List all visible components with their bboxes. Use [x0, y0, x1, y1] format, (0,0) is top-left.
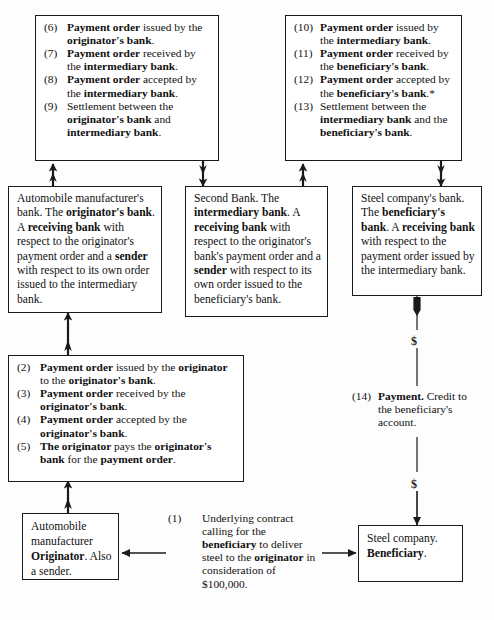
list-item: (3) Payment order received by the origin… [17, 387, 237, 413]
box-text: with respect to the payment order issued… [361, 235, 475, 277]
step-plain: . [152, 34, 155, 46]
arrow-intbank-to-steps1013 [299, 164, 307, 186]
arrow-originator-to-steps25 [64, 481, 72, 513]
list-item: (1) Underlying contract calling for the … [168, 512, 318, 591]
dollar-label-top: $ [411, 334, 417, 349]
step-strong: Payment order [40, 387, 113, 399]
box-text-strong: Originator [31, 550, 84, 563]
step-text: Payment order accepted by the intermedia… [67, 73, 212, 99]
step-plain: Settlement between the [320, 100, 426, 112]
payment-step-14-note: (14) Payment. Credit to the beneficiary'… [352, 390, 472, 429]
list-item: (4) Payment order accepted by the origin… [17, 413, 237, 439]
box-text-strong: originator's bank [66, 206, 152, 219]
box-text-strong: sender [115, 250, 148, 263]
step-text: Payment order accepted by the originator… [40, 413, 237, 439]
step-plain: . [175, 87, 178, 99]
step-strong: Payment order [320, 47, 393, 59]
step-strong: originator's bank [67, 113, 152, 125]
box-text-strong: receiving bank [28, 221, 101, 234]
step-plain: . [175, 60, 178, 72]
step-strong: originator's bank [68, 374, 153, 386]
arrow-steps25-to-origbank [64, 313, 72, 355]
step-text: The originator pays the originator's ban… [40, 440, 237, 466]
step-plain: received by the [113, 387, 185, 399]
step-strong: intermediary bank [84, 87, 175, 99]
step-strong: originator's bank [67, 34, 152, 46]
step-plain: Underlying contract calling for the [202, 512, 293, 537]
step-text: Settlement between the originator's bank… [67, 100, 212, 139]
step-number: (1) [168, 512, 202, 525]
box-text-strong: receiving bank [402, 221, 475, 234]
step-strong: originator [254, 551, 303, 563]
payment-order-steps-2-5-box: (2) Payment order issued by the originat… [8, 355, 244, 482]
step-plain: Settlement between the [67, 100, 173, 112]
step-plain: issued by the [140, 21, 202, 33]
step-strong: originator [178, 361, 227, 373]
step-plain: for the [65, 453, 101, 465]
beneficiarys-bank-box: Steel company's bank. The beneficiary's … [352, 186, 482, 296]
step-strong: Payment. [378, 390, 424, 402]
step-plain: .* [426, 87, 435, 99]
step-strong: beneficiary [202, 538, 256, 550]
payment-order-steps-6-9-box: (6) Payment order issued by the originat… [35, 15, 219, 161]
box-text-strong: sender [194, 264, 227, 277]
box-text: Automobile manufacturer [31, 520, 93, 548]
step-text: Payment order received by the originator… [40, 387, 237, 413]
step-text: Settlement between the intermediary bank… [320, 100, 455, 139]
originators-bank-box: Automobile manufacturer's bank. The orig… [8, 186, 162, 313]
arrow-steps1013-to-benebank [437, 161, 445, 186]
diagram-canvas: down into intermediary bank (double head… [0, 0, 494, 620]
step-plain: to the [40, 374, 68, 386]
step-text: Payment. Credit to the beneficiary's acc… [378, 390, 472, 429]
step-number: (14) [352, 390, 378, 403]
step-text: Payment order issued by the originator t… [40, 361, 237, 387]
step-plain: . [428, 34, 431, 46]
step-number: (12) [294, 73, 320, 86]
step-strong: Payment order [40, 361, 113, 373]
step-strong: intermediary bank [67, 126, 158, 138]
step-plain: . [173, 453, 176, 465]
step-number: (13) [294, 100, 320, 113]
list-item: (7) Payment order received by the interm… [44, 47, 212, 73]
step-strong: Payment order [320, 73, 393, 85]
step-strong: Payment order [67, 21, 140, 33]
step-strong: Payment order [67, 73, 140, 85]
step-plain: pays the [111, 440, 154, 452]
list-item: (5) The originator pays the originator's… [17, 440, 237, 466]
step-plain: issued by the [113, 361, 178, 373]
list-item: (10) Payment order issued by the interme… [294, 21, 455, 47]
step-plain: . [153, 374, 156, 386]
list-item: (13) Settlement between the intermediary… [294, 100, 455, 139]
step-plain: . [426, 60, 429, 72]
step-plain: and the [411, 113, 447, 125]
step-strong: intermediary bank [320, 113, 411, 125]
step-strong: Payment order [67, 47, 140, 59]
step-strong: beneficiary's bank [337, 87, 427, 99]
step-text: Payment order issued by the intermediary… [320, 21, 455, 47]
step-plain: and [152, 113, 171, 125]
step-plain: . [158, 126, 161, 138]
step-number: (11) [294, 47, 320, 60]
step-text: Payment order received by the beneficiar… [320, 47, 455, 73]
step-plain: . [125, 400, 128, 412]
list-item: (9) Settlement between the originator's … [44, 100, 212, 139]
step-number: (7) [44, 47, 67, 60]
list-item: (14) Payment. Credit to the beneficiary'… [352, 390, 472, 429]
step-strong: intermediary bank [84, 60, 175, 72]
list-item: (8) Payment order accepted by the interm… [44, 73, 212, 99]
step-strong: payment order [100, 453, 172, 465]
step-number: (8) [44, 73, 67, 86]
list-item: (12) Payment order accepted by the benef… [294, 73, 455, 99]
step-strong: The originator [40, 440, 111, 452]
underlying-contract-note: (1) Underlying contract calling for the … [168, 512, 318, 591]
step-number: (5) [17, 440, 40, 453]
step-strong: beneficiary's bank [320, 126, 410, 138]
list-item: (11) Payment order received by the benef… [294, 47, 455, 73]
box-text: . A [287, 206, 300, 219]
payment-order-steps-10-13-box: (10) Payment order issued by the interme… [285, 15, 462, 161]
step-number: (2) [17, 361, 40, 374]
intermediary-bank-box: Second Bank. The intermediary bank. A re… [185, 186, 328, 317]
step-text: Underlying contract calling for the bene… [202, 512, 318, 591]
box-text: with respect to its own order issued to … [17, 264, 149, 306]
step-number: (10) [294, 21, 320, 34]
